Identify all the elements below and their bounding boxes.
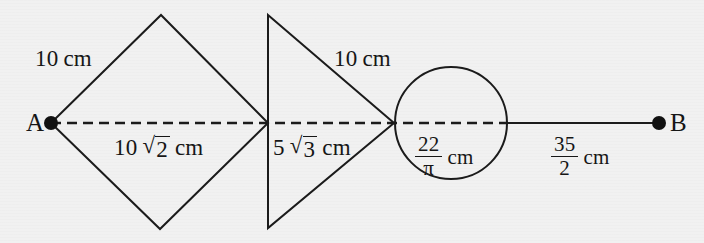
triangle-height-coefficient: 5: [273, 136, 285, 159]
triangle-height-label: 5 √ 3 cm: [273, 134, 351, 161]
triangle-height-radicand: 3: [303, 136, 318, 161]
triangle-height-radical: √ 3: [290, 134, 318, 161]
point-b-dot: [652, 116, 666, 130]
circle-diameter-unit: cm: [447, 145, 473, 168]
diamond-side-value: 10: [35, 47, 58, 70]
point-a-label: A: [26, 110, 44, 135]
segment-to-b-unit: cm: [583, 145, 609, 168]
diamond-side-unit: cm: [63, 47, 92, 70]
triangle-side-value: 10: [334, 47, 357, 70]
triangle-side-label: 10 cm: [334, 47, 391, 70]
segment-to-b-numerator: 35: [551, 134, 578, 156]
triangle-side-unit: cm: [362, 47, 391, 70]
segment-to-b-fraction: 35 2: [551, 134, 578, 180]
circle-diameter-label: 22 π cm: [415, 132, 473, 180]
diamond-diagonal-label: 10 √ 2 cm: [114, 134, 203, 161]
diamond-side-label: 10 cm: [35, 47, 92, 70]
segment-to-b-denominator: 2: [551, 156, 578, 179]
circle-diameter-numerator: 22: [415, 134, 442, 156]
diamond-diagonal-coefficient: 10: [114, 136, 137, 159]
diamond-diagonal-radicand: 2: [155, 136, 170, 161]
point-a-dot: [44, 116, 58, 130]
diamond-diagonal-unit: cm: [175, 136, 204, 159]
circle-diameter-fraction: 22 π: [415, 134, 442, 180]
circle-diameter-denominator: π: [415, 156, 442, 179]
radical-sign-icon: √: [142, 134, 155, 157]
figure-canvas: [0, 0, 704, 243]
triangle-height-unit: cm: [322, 136, 351, 159]
geometry-figure: A B 10 cm 10 √ 2 cm 5 √ 3 cm: [0, 0, 704, 243]
segment-to-b-label: 35 2 cm: [551, 132, 609, 180]
diamond-diagonal-radical: √ 2: [142, 134, 170, 161]
radical-sign-icon: √: [290, 134, 303, 157]
point-b-label: B: [670, 110, 687, 135]
